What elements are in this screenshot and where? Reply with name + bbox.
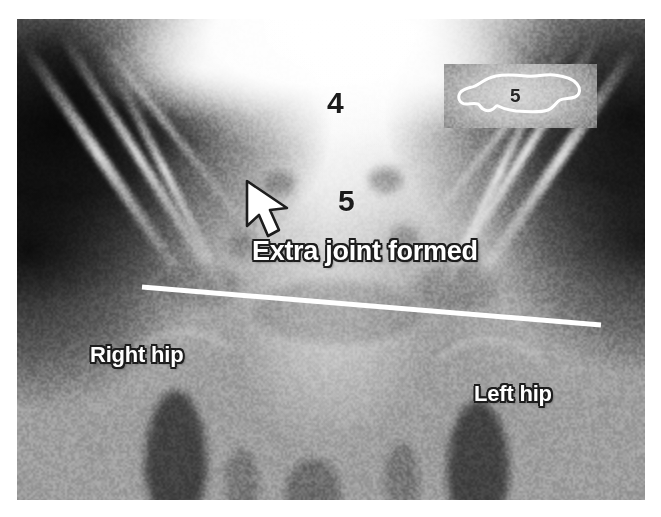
vertebra-label-l4: 4 [327,88,344,118]
vertebra-label-l5: 5 [338,186,355,216]
magnified-vertebra-inset: 5 [444,64,597,128]
arrow-pointing-to-extra-joint [243,178,299,244]
radiograph-figure: 4 5 Extra joint formed Right hip Left hi… [0,0,661,517]
inset-vertebra-label: 5 [510,86,521,105]
left-hip-label: Left hip [474,383,552,405]
right-hip-label: Right hip [90,344,184,366]
extra-joint-label: Extra joint formed [252,238,478,265]
